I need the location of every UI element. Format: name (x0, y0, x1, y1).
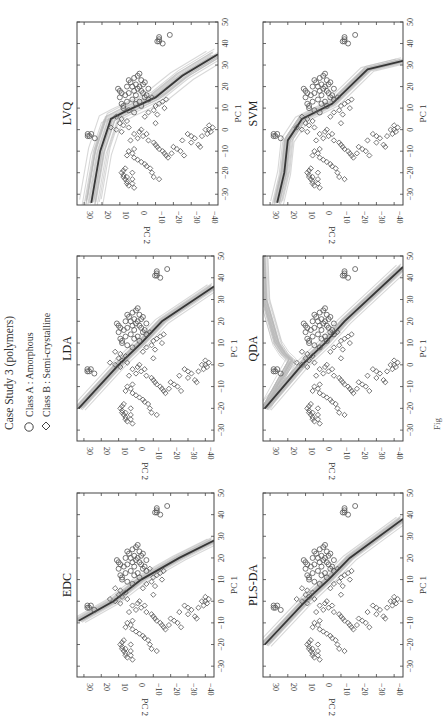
pc1-tick-label: 10 (406, 104, 415, 112)
pc2-tick-label: −40 (210, 211, 219, 224)
class-b-point (347, 340, 352, 345)
pc2-tick-label: 20 (289, 683, 298, 691)
diamond-icon (42, 422, 50, 430)
class-b-point (342, 412, 347, 417)
pc2-tick-label: 20 (102, 683, 111, 691)
class-b-point (137, 395, 142, 400)
panel-title: QDA (246, 335, 260, 361)
class-b-point (144, 373, 149, 378)
class-b-point (384, 134, 389, 139)
class-b-point (338, 592, 343, 597)
pc1-tick-label: 0 (406, 599, 415, 603)
class-a-point (353, 503, 358, 508)
bootstrap-boundary-line (279, 62, 405, 204)
class-a-point (315, 332, 320, 337)
class-b-point (317, 367, 322, 372)
pc1-tick-label: 10 (221, 104, 230, 112)
pc1-tick-label: 0 (221, 128, 230, 132)
panel-svm: −30−20−1001020304050−40−30−20−100102030P… (246, 18, 428, 244)
class-a-point (312, 579, 317, 584)
class-b-point (180, 138, 185, 143)
class-b-point (340, 347, 345, 352)
class-b-point (328, 114, 333, 119)
pc1-tick-label: −10 (406, 380, 415, 393)
class-b-point (128, 642, 133, 647)
pc1-tick-label: 0 (406, 363, 415, 367)
class-b-point (384, 605, 389, 610)
pc1-tick-label: 10 (406, 576, 415, 584)
class-b-point (299, 586, 304, 591)
panel-lvq: −30−20−1001020304050−40−30−20−100102030P… (60, 18, 243, 244)
pc1-tick-label: −10 (217, 380, 226, 393)
pc2-tick-label: 10 (307, 211, 316, 219)
class-b-point (314, 373, 319, 378)
class-b-point (299, 349, 304, 354)
class-a-point (353, 32, 358, 37)
class-b-point (365, 373, 370, 378)
pc1-tick-label: 50 (406, 252, 415, 260)
class-a-point (310, 99, 315, 104)
class-b-point (133, 393, 138, 398)
pc1-axis-label: PC 1 (418, 105, 428, 123)
class-b-point (331, 609, 336, 614)
pc1-tick-label: 0 (406, 128, 415, 132)
class-b-point (166, 386, 171, 391)
class-b-point (178, 625, 183, 630)
pc1-tick-label: 40 (406, 274, 415, 282)
bootstrap-boundary-line (279, 62, 405, 204)
class-b-point (153, 121, 158, 126)
class-a-point (278, 607, 283, 612)
class-a-point (123, 334, 128, 339)
class-b-point (130, 170, 135, 175)
class-b-point (189, 140, 194, 145)
pc1-tick-label: −20 (217, 402, 226, 415)
pc1-axis-label: PC 1 (418, 340, 428, 358)
class-a-point (128, 568, 133, 573)
pc2-tick-label: −20 (172, 447, 181, 460)
class-b-point (177, 609, 182, 614)
class-b-point (155, 112, 160, 117)
class-b-point (154, 648, 159, 653)
pc1-tick-label: 0 (217, 363, 226, 367)
pc2-tick-label: 0 (137, 447, 146, 451)
class-b-point (132, 131, 137, 136)
pc2-tick-label: −10 (342, 683, 351, 696)
pc1-tick-label: 30 (217, 296, 226, 304)
pc1-tick-label: 50 (217, 489, 226, 497)
pc1-tick-label: −10 (406, 617, 415, 630)
pc1-axis-label: PC 1 (233, 105, 243, 123)
class-b-point (374, 612, 379, 617)
class-a-point (310, 571, 315, 576)
panel-title: LVQ (60, 101, 74, 125)
class-b-point (130, 367, 135, 372)
pc2-tick-label: −20 (360, 211, 369, 224)
circle-icon (25, 423, 33, 431)
class-b-point (331, 138, 336, 143)
class-b-point (314, 138, 319, 143)
class-b-point (161, 332, 166, 337)
bootstrap-boundary-line (103, 58, 230, 207)
class-b-point (331, 373, 336, 378)
class-b-point (317, 131, 322, 136)
class-b-point (159, 577, 164, 582)
bootstrap-boundary-line (278, 61, 404, 203)
class-b-point (315, 642, 320, 647)
pc2-tick-label: 10 (307, 447, 316, 455)
pc1-tick-label: 10 (406, 339, 415, 347)
class-b-point (331, 345, 336, 350)
class-b-point (182, 367, 187, 372)
pc2-axis-label: PC 2 (142, 226, 152, 244)
legend: Case Study 3 (polymers) Class A : Amorph… (3, 312, 52, 431)
class-b-point (135, 136, 140, 141)
class-b-point (314, 609, 319, 614)
class-a-point (165, 503, 170, 508)
class-b-point (340, 112, 345, 117)
plot-area (72, 503, 220, 662)
class-b-point (152, 347, 157, 352)
class-b-point (347, 106, 352, 111)
pc2-tick-label: 20 (102, 447, 111, 455)
class-b-point (331, 110, 336, 115)
pc1-tick-label: 20 (221, 83, 230, 91)
bootstrap-boundary-line (99, 53, 226, 202)
class-a-point (315, 97, 320, 102)
